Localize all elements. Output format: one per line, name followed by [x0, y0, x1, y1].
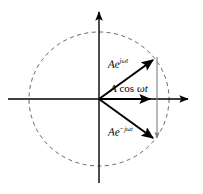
label-positive-exponential-base: Ae: [108, 58, 120, 70]
label-cosine-amplitude: A: [110, 82, 117, 94]
label-cosine-function: cos: [119, 82, 134, 94]
phasor-diagram-figure: Aejωt A cos ωt Ae−jωt: [0, 0, 203, 194]
label-negative-exponential-base: Ae: [108, 125, 120, 137]
label-negative-exponential-exponent: −jωt: [120, 125, 133, 132]
label-cosine-argument: ωt: [137, 82, 148, 94]
phasor-diagram-canvas: [0, 0, 203, 194]
label-positive-exponential: Aejωt: [108, 58, 128, 70]
label-positive-exponential-exponent: jωt: [119, 57, 128, 64]
label-cosine: A cos ωt: [110, 83, 148, 94]
label-negative-exponential: Ae−jωt: [108, 126, 133, 138]
